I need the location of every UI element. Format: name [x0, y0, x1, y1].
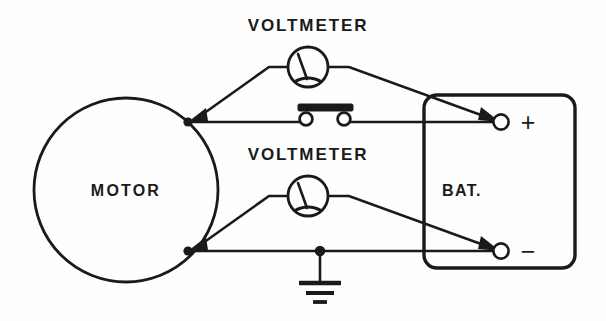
wiring-diagram-canvas: BAT. MOTOR	[0, 0, 606, 321]
voltmeter-top-label: VOLTMETER	[248, 16, 369, 35]
positive-sign: +	[521, 108, 536, 136]
negative-terminal-ring[interactable]	[493, 243, 508, 258]
motor-label: MOTOR	[91, 182, 161, 199]
switch-right-contact[interactable]	[338, 113, 351, 126]
switch-bar[interactable]	[298, 104, 353, 111]
voltmeter-bottom-label: VOLTMETER	[248, 145, 369, 164]
switch-left-contact[interactable]	[300, 113, 313, 126]
positive-terminal-ring[interactable]	[493, 114, 508, 129]
voltmeter-bottom-right-lead	[328, 196, 492, 248]
voltmeter-top-left-lead	[196, 67, 288, 119]
voltmeter-top-needle	[298, 54, 307, 79]
wiring-diagram: BAT. MOTOR	[0, 0, 606, 321]
voltmeter-top-scale-arc	[294, 78, 322, 82]
shorting-bar-switch[interactable]	[298, 104, 353, 125]
ground-symbol	[299, 246, 341, 302]
voltmeter-bottom-left-lead-arrowhead	[188, 237, 208, 251]
battery-label: BAT.	[442, 182, 482, 199]
voltmeter-top-left-lead-arrowhead	[188, 108, 208, 122]
motor-component: MOTOR	[34, 98, 218, 282]
voltmeter-bottom-left-lead	[196, 196, 288, 248]
voltmeter-bottom-needle	[298, 183, 307, 208]
negative-sign: −	[521, 237, 536, 265]
voltmeter-bottom-scale-arc	[294, 207, 322, 211]
battery-terminals: + −	[493, 108, 535, 265]
